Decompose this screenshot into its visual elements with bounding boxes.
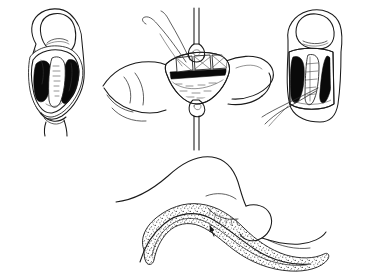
figure-svg xyxy=(0,0,368,280)
surgical-figure-canvas: Fingertip nail bed reconstruction with b… xyxy=(0,0,368,280)
wound-interior-c xyxy=(290,54,333,104)
